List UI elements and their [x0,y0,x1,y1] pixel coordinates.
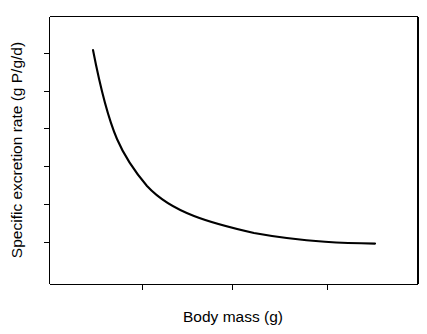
y-axis-title: Specific excretion rate (g P/g/d) [8,42,25,258]
x-axis-ticks [143,285,328,291]
y-axis-ticks [44,54,50,243]
x-axis-title: Body mass (g) [183,308,283,325]
chart-canvas: Specific excretion rate (g P/g/d) Body m… [0,0,427,334]
chart-figure: Specific excretion rate (g P/g/d) Body m… [0,0,427,334]
